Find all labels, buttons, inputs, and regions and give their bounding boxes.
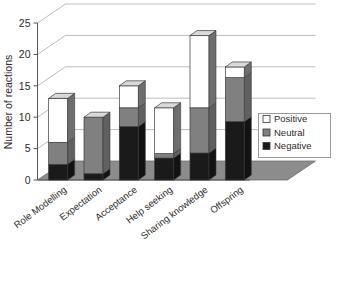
bar-side-neutral [103, 112, 110, 174]
bar-side-positive [174, 103, 181, 154]
bar-chart: 0510152025 Number of reactions Role Mode… [0, 0, 337, 282]
bar-side-neutral [244, 73, 251, 122]
bar-column [155, 103, 181, 180]
legend-label: Positive [274, 113, 307, 124]
chart-canvas: 0510152025 Number of reactions Role Mode… [0, 0, 337, 282]
bar-side-negative [244, 117, 251, 180]
bar-segment-neutral [119, 108, 138, 127]
bar-segment-neutral [155, 154, 174, 158]
bar-segment-neutral [225, 78, 244, 122]
y-tick-label: 15 [19, 80, 31, 92]
bar-segment-positive [225, 67, 244, 78]
y-tick-label: 5 [25, 142, 31, 154]
bar-segment-neutral [190, 108, 209, 153]
bar-column [84, 112, 110, 180]
bar-segment-positive [119, 86, 138, 108]
bar-column [49, 93, 75, 180]
legend-swatch-neutral [263, 129, 270, 136]
legend-swatch-negative [263, 143, 270, 150]
bar-side-negative [209, 148, 216, 180]
bar-side-neutral [209, 103, 216, 153]
bar-segment-positive [49, 98, 68, 142]
legend-items: PositiveNeutralNegative [263, 113, 312, 151]
bar-segment-negative [155, 158, 174, 180]
bar-segment-positive [155, 108, 174, 154]
legend-label: Negative [274, 140, 312, 151]
y-tick-label: 10 [19, 111, 31, 123]
y-axis-title: Number of reactions [2, 55, 14, 150]
bar-segment-negative [84, 174, 103, 180]
bar-column [225, 62, 251, 180]
y-tick-label: 20 [19, 48, 31, 60]
bar-segment-neutral [84, 117, 103, 174]
legend: PositiveNeutralNegative [259, 113, 331, 158]
legend-swatch-positive [263, 116, 270, 123]
bar-column [190, 31, 216, 180]
bar-segment-negative [119, 127, 138, 180]
bar-side-positive [68, 93, 75, 142]
bar-side-negative [138, 122, 145, 180]
bar-segment-positive [190, 36, 209, 108]
bar-column [119, 81, 145, 180]
bar-segment-neutral [49, 142, 68, 164]
bar-segment-negative [225, 122, 244, 180]
y-tick-label: 25 [19, 17, 31, 29]
bar-segment-negative [49, 164, 68, 180]
bar-segment-negative [190, 153, 209, 180]
y-tick-label: 0 [25, 174, 31, 186]
legend-label: Neutral [274, 127, 305, 138]
bar-side-positive [209, 31, 216, 108]
